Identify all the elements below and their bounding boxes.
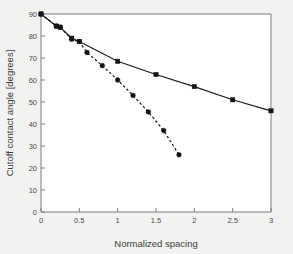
x-tick-label: 2 <box>192 216 196 225</box>
data-point-marker <box>115 78 120 83</box>
data-point-marker <box>77 39 82 44</box>
x-tick-label: 0 <box>39 216 43 225</box>
data-point-marker <box>69 37 74 42</box>
y-tick-label: 40 <box>29 120 37 129</box>
y-tick-label: 20 <box>29 164 37 173</box>
x-tick-label: 0.5 <box>74 216 84 225</box>
data-point-marker <box>131 93 136 98</box>
data-point-marker <box>192 84 196 88</box>
y-tick-label: 50 <box>29 98 37 107</box>
data-point-marker <box>85 50 90 55</box>
data-point-marker <box>177 152 182 157</box>
x-axis-title: Normalized spacing <box>114 238 197 249</box>
data-point-marker <box>100 63 105 68</box>
y-tick-label: 80 <box>29 32 37 41</box>
y-tick-label: 90 <box>29 10 37 19</box>
x-tick-label: 3 <box>269 216 273 225</box>
data-point-marker <box>161 128 166 133</box>
plot-background <box>41 14 271 212</box>
data-point-marker <box>154 72 158 76</box>
data-point-marker <box>230 98 234 102</box>
y-tick-label: 10 <box>29 186 37 195</box>
chart-plot: 00.511.522.53 0102030405060708090 Normal… <box>0 0 293 254</box>
x-tick-label: 1.5 <box>151 216 161 225</box>
x-tick-label: 2.5 <box>227 216 237 225</box>
y-tick-label: 30 <box>29 142 37 151</box>
y-tick-label: 60 <box>29 76 37 85</box>
data-point-marker <box>146 110 151 115</box>
data-point-marker <box>39 12 44 17</box>
y-axis-title: Cutoff contact angle [degrees] <box>4 50 15 177</box>
data-point-marker <box>269 109 273 113</box>
figure-container: 00.511.522.53 0102030405060708090 Normal… <box>0 0 293 254</box>
x-tick-label: 1 <box>116 216 120 225</box>
y-tick-label: 70 <box>29 54 37 63</box>
data-point-marker <box>58 25 63 30</box>
y-tick-label: 0 <box>33 208 37 217</box>
data-point-marker <box>115 59 119 63</box>
